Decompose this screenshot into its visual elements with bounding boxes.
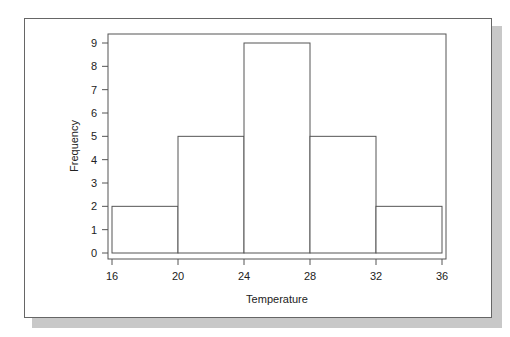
x-tick-label: 36 <box>436 270 448 282</box>
histogram-bar <box>112 206 178 253</box>
histogram-bar <box>376 206 442 253</box>
y-tick-label: 9 <box>91 37 97 49</box>
y-tick-label: 8 <box>91 60 97 72</box>
histogram-bar <box>244 43 310 253</box>
y-tick-label: 1 <box>91 224 97 236</box>
y-tick-label: 3 <box>91 177 97 189</box>
y-tick-label: 0 <box>91 247 97 259</box>
histogram-bar <box>310 136 376 253</box>
x-tick-label: 20 <box>172 270 184 282</box>
x-axis-label: Temperature <box>246 293 308 305</box>
y-tick-label: 4 <box>91 154 97 166</box>
x-tick-label: 24 <box>238 270 250 282</box>
y-tick-label: 6 <box>91 107 97 119</box>
x-axis: 162024283236 <box>106 259 448 282</box>
y-tick-label: 7 <box>91 84 97 96</box>
y-axis-label: Frequency <box>68 120 80 172</box>
y-tick-label: 2 <box>91 200 97 212</box>
histogram-bars <box>112 43 442 253</box>
y-axis: 0123456789 <box>91 37 108 259</box>
histogram-bar <box>178 136 244 253</box>
x-tick-label: 28 <box>304 270 316 282</box>
histogram-chart: 0123456789 162024283236 Temperature Freq… <box>0 0 510 337</box>
y-tick-label: 5 <box>91 130 97 142</box>
x-tick-label: 32 <box>370 270 382 282</box>
x-tick-label: 16 <box>106 270 118 282</box>
